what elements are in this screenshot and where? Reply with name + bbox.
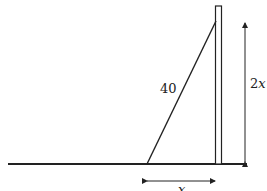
ladder-diagram: 40 2x x [0,0,267,191]
pole [216,6,222,164]
height-label: 2x [250,76,266,91]
ladder-line [147,21,216,164]
base-label: x [178,182,186,191]
ladder-length-label: 40 [160,81,177,96]
height-label-var: x [258,76,266,91]
height-label-num: 2 [250,76,258,91]
